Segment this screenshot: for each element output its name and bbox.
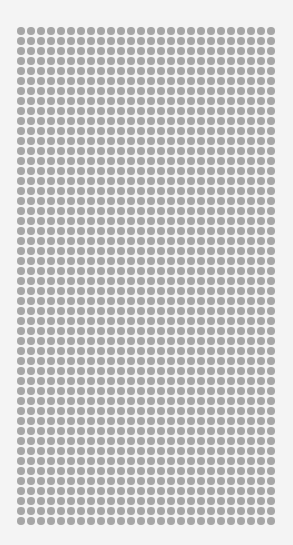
dot	[27, 467, 35, 475]
dot	[57, 427, 65, 435]
dot	[267, 187, 275, 195]
dot	[117, 497, 125, 505]
dot	[197, 457, 205, 465]
dot	[227, 467, 235, 475]
dot	[167, 317, 175, 325]
dot	[47, 397, 55, 405]
dot	[107, 257, 115, 265]
dot	[77, 167, 85, 175]
dot	[217, 357, 225, 365]
dot	[247, 57, 255, 65]
dot	[237, 377, 245, 385]
dot	[167, 387, 175, 395]
dot	[27, 127, 35, 135]
dot	[187, 447, 195, 455]
dot	[267, 397, 275, 405]
dot	[17, 237, 25, 245]
dot	[217, 487, 225, 495]
dot	[217, 87, 225, 95]
dot	[187, 237, 195, 245]
dot	[77, 407, 85, 415]
dot	[217, 437, 225, 445]
dot	[57, 367, 65, 375]
dot	[67, 67, 75, 75]
dot	[77, 427, 85, 435]
dot	[97, 137, 105, 145]
dot	[67, 277, 75, 285]
dot	[257, 487, 265, 495]
dot	[37, 77, 45, 85]
dot	[247, 347, 255, 355]
dot	[137, 347, 145, 355]
dot	[247, 427, 255, 435]
dot	[77, 327, 85, 335]
dot	[107, 207, 115, 215]
dot	[157, 297, 165, 305]
dot	[17, 197, 25, 205]
dot	[37, 357, 45, 365]
dot	[57, 107, 65, 115]
dot	[207, 497, 215, 505]
dot	[227, 237, 235, 245]
dot	[27, 227, 35, 235]
dot	[67, 357, 75, 365]
dot	[207, 187, 215, 195]
dot	[137, 257, 145, 265]
dot	[207, 167, 215, 175]
dot	[267, 297, 275, 305]
dot	[37, 467, 45, 475]
dot	[127, 137, 135, 145]
dot	[87, 317, 95, 325]
dot	[17, 137, 25, 145]
dot	[47, 237, 55, 245]
dot	[37, 447, 45, 455]
dot	[237, 387, 245, 395]
dot	[217, 77, 225, 85]
dot	[167, 417, 175, 425]
dot	[147, 97, 155, 105]
dot	[27, 77, 35, 85]
dot	[117, 217, 125, 225]
dot	[237, 437, 245, 445]
dot	[167, 427, 175, 435]
dot	[207, 347, 215, 355]
dot	[57, 387, 65, 395]
dot	[77, 207, 85, 215]
dot	[177, 377, 185, 385]
dot	[37, 87, 45, 95]
dot	[97, 427, 105, 435]
dot	[177, 107, 185, 115]
dot	[77, 347, 85, 355]
dot	[187, 77, 195, 85]
dot	[167, 487, 175, 495]
dot	[267, 317, 275, 325]
dot	[257, 147, 265, 155]
dot	[187, 187, 195, 195]
dot	[167, 87, 175, 95]
dot	[207, 107, 215, 115]
dot	[267, 47, 275, 55]
dot	[27, 87, 35, 95]
dot	[87, 257, 95, 265]
dot	[97, 327, 105, 335]
dot	[237, 257, 245, 265]
dot	[17, 27, 25, 35]
dot	[57, 297, 65, 305]
dot	[47, 427, 55, 435]
dot	[247, 217, 255, 225]
dot	[87, 97, 95, 105]
dot	[37, 147, 45, 155]
dot	[77, 317, 85, 325]
dot	[77, 257, 85, 265]
dot	[87, 387, 95, 395]
dot	[187, 517, 195, 525]
dot	[137, 397, 145, 405]
dot	[137, 27, 145, 35]
dot	[197, 167, 205, 175]
dot	[227, 77, 235, 85]
dot	[127, 127, 135, 135]
dot	[127, 207, 135, 215]
dot	[87, 407, 95, 415]
dot	[97, 47, 105, 55]
dot	[97, 397, 105, 405]
